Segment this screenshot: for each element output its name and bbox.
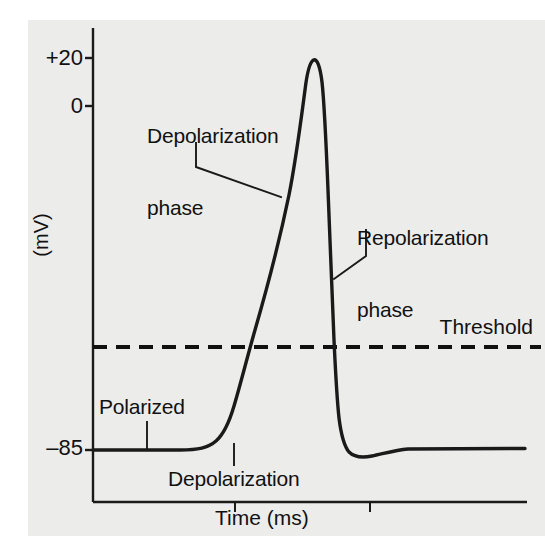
annotation-repolarization-phase: Repolarization phase <box>357 178 488 370</box>
y-tick-label-neg85: –85 <box>16 437 83 459</box>
action-potential-figure: +20 0 –85 (mV) Time (ms) Depolarization … <box>0 0 545 560</box>
annotation-depolarization-phase-line1: Depolarization <box>147 124 278 148</box>
y-axis-label: (mV) <box>31 210 51 260</box>
annotation-depolarization-phase: Depolarization phase <box>147 76 278 268</box>
y-tick-label-plus20: +20 <box>20 47 83 69</box>
annotation-depolarization: Depolarization <box>168 467 299 491</box>
annotation-depolarization-phase-line2: phase <box>147 196 278 220</box>
annotation-repolarization-phase-line1: Repolarization <box>357 226 488 250</box>
x-axis-label: Time (ms) <box>215 506 309 530</box>
annotation-polarized: Polarized <box>99 395 185 419</box>
y-tick-label-zero: 0 <box>20 95 83 117</box>
annotation-threshold: Threshold <box>415 315 533 339</box>
